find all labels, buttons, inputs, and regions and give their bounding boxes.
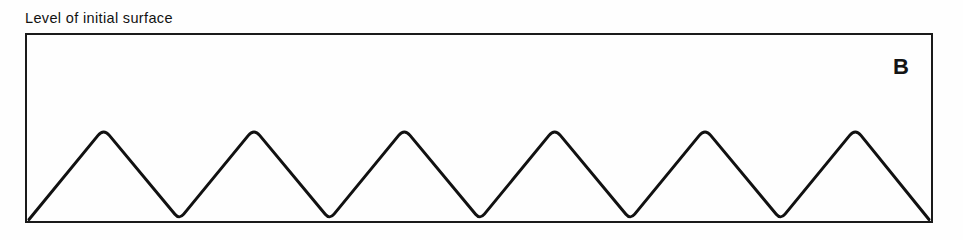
surface-profile-line: [29, 132, 929, 220]
diagram-frame: B: [25, 33, 933, 223]
sawtooth-profile-chart: [27, 35, 931, 221]
figure-caption-level-of-initial-surface: Level of initial surface: [25, 9, 173, 28]
figure-panel-b: Level of initial surface B: [0, 0, 963, 240]
